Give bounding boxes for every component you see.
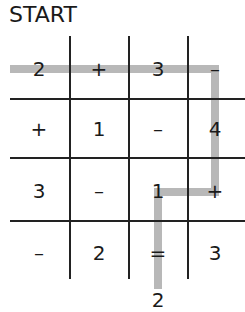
grid-cell: 3	[10, 176, 68, 206]
grid-cell: 2	[10, 54, 68, 84]
grid-cell: +	[186, 176, 244, 206]
grid-cell: =	[129, 238, 187, 268]
grid-hline-3	[10, 220, 245, 222]
grid-cell: 1	[129, 176, 187, 206]
grid-cell: 3	[129, 54, 187, 84]
grid-cell: 1	[70, 114, 128, 144]
start-label: START	[9, 2, 77, 28]
grid-cell: +	[70, 54, 128, 84]
grid-cell: –	[10, 238, 68, 268]
grid-cell: 2	[70, 238, 128, 268]
grid-cell: +	[10, 114, 68, 144]
grid-cell: –	[129, 114, 187, 144]
grid-cell: 4	[186, 114, 244, 144]
grid-cell: 3	[186, 238, 244, 268]
grid-cell: –	[70, 176, 128, 206]
grid-hline-2	[10, 157, 245, 159]
grid-hline-1	[10, 98, 245, 100]
grid-cell: –	[186, 54, 244, 84]
end-value: 2	[148, 288, 168, 312]
